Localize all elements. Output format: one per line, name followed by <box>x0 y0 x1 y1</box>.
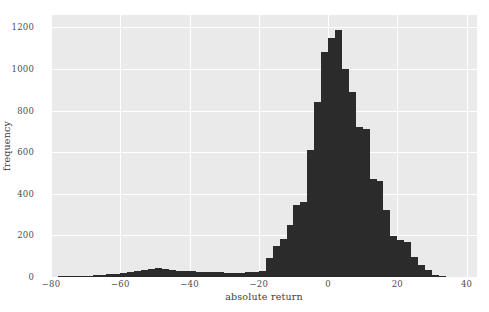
y-axis-label: frequency <box>1 121 12 171</box>
y-tick-label: 800 <box>17 106 34 116</box>
histogram-bar <box>259 271 266 277</box>
histogram-bar <box>106 274 113 277</box>
histogram-bar <box>411 257 418 277</box>
histogram-bar <box>72 276 79 277</box>
histogram-bar <box>266 258 273 277</box>
histogram-bar <box>93 275 100 277</box>
histogram-bar <box>383 210 390 277</box>
histogram-bar <box>439 276 446 277</box>
x-tick-label: 0 <box>325 279 331 289</box>
histogram-bar <box>203 272 210 277</box>
histogram-bar <box>418 265 425 277</box>
histogram-bar <box>196 272 203 277</box>
histogram-bar <box>370 179 377 277</box>
histogram-bar <box>141 270 148 277</box>
histogram-bar <box>335 30 342 277</box>
histogram-bar <box>328 38 335 277</box>
histogram-bar <box>425 270 432 277</box>
histogram-bar <box>363 129 370 277</box>
histogram-bar <box>155 268 162 277</box>
histogram-figure: −80−60−40−2002040 020040060080010001200 … <box>0 0 489 312</box>
histogram-bar <box>321 52 328 277</box>
histogram-bar <box>397 240 404 277</box>
histogram-bar <box>280 239 287 277</box>
x-tick-label: 20 <box>392 279 403 289</box>
histogram-bar <box>356 127 363 277</box>
histogram-bar <box>307 150 314 277</box>
x-tick-label: −80 <box>42 279 61 289</box>
histogram-bar <box>390 236 397 277</box>
histogram-bar <box>432 275 439 277</box>
histogram-bar <box>377 181 384 277</box>
histogram-bar <box>300 202 307 277</box>
x-tick-label: −20 <box>250 279 269 289</box>
histogram-bar <box>293 205 300 277</box>
histogram-bar <box>314 102 321 277</box>
histogram-bar <box>58 276 65 277</box>
histogram-bar <box>342 69 349 277</box>
histogram-bar <box>238 273 245 277</box>
histogram-bar <box>190 271 197 277</box>
histogram-bar <box>162 269 169 277</box>
histogram-bar <box>65 276 72 277</box>
histogram-bars <box>51 15 477 277</box>
y-tick-label: 600 <box>17 147 34 157</box>
histogram-bar <box>183 271 190 277</box>
x-tick-label: −40 <box>180 279 199 289</box>
histogram-bar <box>113 274 120 277</box>
y-tick-label: 400 <box>17 189 34 199</box>
y-tick-label: 200 <box>17 230 34 240</box>
histogram-bar <box>245 272 252 277</box>
y-tick-label: 1000 <box>12 64 34 74</box>
histogram-bar <box>169 270 176 277</box>
histogram-bar <box>349 92 356 277</box>
histogram-bar <box>79 276 86 277</box>
plot-area <box>51 15 477 277</box>
histogram-bar <box>273 246 280 277</box>
y-tick-label: 0 <box>28 272 34 282</box>
histogram-bar <box>404 242 411 277</box>
histogram-bar <box>120 273 127 277</box>
histogram-bar <box>148 269 155 277</box>
histogram-bar <box>210 272 217 277</box>
x-tick-label: 40 <box>461 279 472 289</box>
y-tick-label: 1200 <box>12 22 34 32</box>
histogram-bar <box>217 272 224 277</box>
histogram-bar <box>86 276 93 277</box>
histogram-bar <box>127 272 134 277</box>
histogram-bar <box>287 225 294 277</box>
histogram-bar <box>224 273 231 277</box>
histogram-bar <box>99 275 106 277</box>
x-tick-label: −60 <box>111 279 130 289</box>
histogram-bar <box>252 272 259 277</box>
histogram-bar <box>176 271 183 277</box>
x-axis-label: absolute return <box>51 291 477 302</box>
histogram-bar <box>134 271 141 277</box>
histogram-bar <box>231 273 238 277</box>
